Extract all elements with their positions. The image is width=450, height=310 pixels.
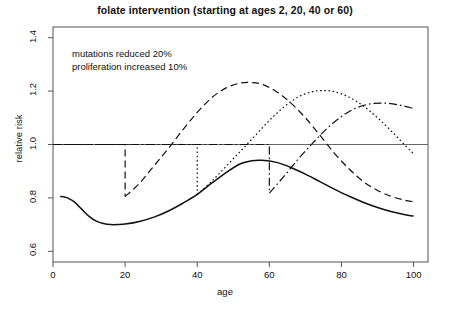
x-tick-label: 60 [254, 269, 284, 280]
y-axis-label: relative risk [13, 94, 24, 184]
y-tick-label: 0.6 [27, 237, 38, 263]
series-curve [60, 160, 413, 225]
x-tick-label: 40 [182, 269, 212, 280]
y-tick-label: 0.8 [27, 183, 38, 209]
series-1 [60, 160, 413, 225]
series-curve [197, 91, 413, 195]
x-tick-label: 20 [110, 269, 140, 280]
chart-annotation: mutations reduced 20% proliferation incr… [72, 48, 187, 73]
series-plateau-line [53, 145, 269, 194]
series-4 [53, 103, 414, 193]
y-tick-label: 1.0 [27, 130, 38, 156]
series-curve [269, 103, 413, 193]
plot-area [0, 0, 450, 310]
series-plateau-line [53, 145, 125, 197]
y-tick-label: 1.4 [27, 23, 38, 49]
x-tick-label: 80 [326, 269, 356, 280]
x-tick-label: 100 [399, 269, 429, 280]
x-tick-label: 0 [38, 269, 68, 280]
chart-figure: folate intervention (starting at ages 2,… [0, 0, 450, 310]
chart-title: folate intervention (starting at ages 2,… [0, 4, 450, 16]
series-2 [53, 82, 414, 201]
x-axis-label: age [0, 286, 450, 297]
y-tick-label: 1.2 [27, 77, 38, 103]
